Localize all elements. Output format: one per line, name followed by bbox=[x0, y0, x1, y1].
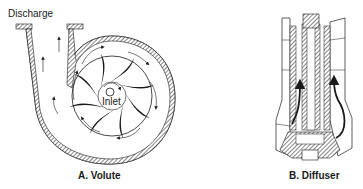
diagram-canvas bbox=[0, 0, 363, 189]
volute-diagram bbox=[16, 24, 175, 164]
diffuser-diagram bbox=[276, 14, 352, 160]
volute-casing-wall bbox=[26, 29, 175, 164]
discharge-flange-right bbox=[67, 24, 83, 29]
inlet-label: Inlet bbox=[102, 96, 121, 107]
caption-diffuser: B. Diffuser bbox=[289, 170, 340, 181]
discharge-flange-left bbox=[16, 24, 32, 29]
caption-volute: A. Volute bbox=[78, 170, 121, 181]
discharge-label: Discharge bbox=[8, 8, 53, 19]
inlet-eye bbox=[106, 88, 114, 96]
